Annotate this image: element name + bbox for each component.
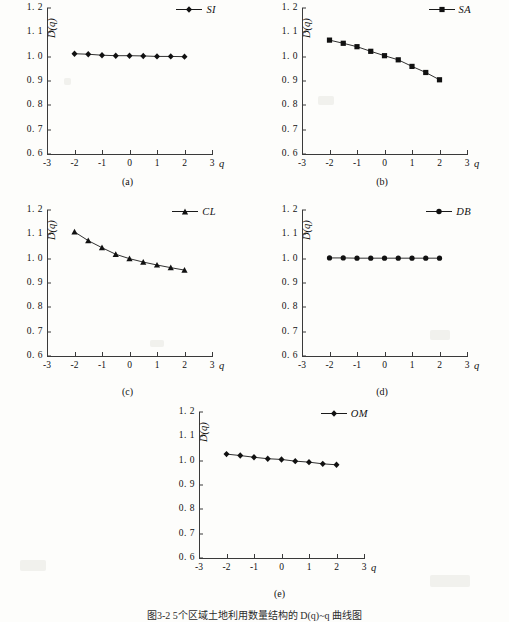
y-tick-label: 0. 6 bbox=[282, 351, 298, 361]
y-tick-label: 1. 2 bbox=[282, 3, 298, 13]
x-tick-mark bbox=[467, 150, 468, 154]
panel-c: D(q) CL q 0. 60. 70. 80. 91. 01. 11. 2-3… bbox=[0, 196, 255, 402]
y-tick-label: 1. 2 bbox=[179, 407, 195, 417]
y-tick-label: 1. 2 bbox=[27, 205, 43, 215]
data-point-marker bbox=[127, 52, 133, 58]
y-tick-mark bbox=[302, 154, 306, 155]
y-tick-label: 1. 1 bbox=[179, 432, 195, 442]
x-axis-label: q bbox=[474, 158, 479, 169]
data-point-marker bbox=[423, 256, 428, 261]
y-tick-mark bbox=[47, 56, 51, 57]
x-tick-label: 3 bbox=[210, 361, 215, 371]
y-tick-mark bbox=[47, 283, 51, 284]
data-point-marker bbox=[382, 256, 387, 261]
y-tick-mark bbox=[47, 129, 51, 130]
y-tick-mark bbox=[199, 533, 203, 534]
y-tick-label: 1. 0 bbox=[27, 52, 43, 62]
x-tick-mark bbox=[440, 352, 441, 356]
panel-caption-a: (a) bbox=[0, 176, 255, 187]
x-tick-label: 1 bbox=[155, 361, 160, 371]
y-tick-mark bbox=[47, 154, 51, 155]
x-tick-mark bbox=[185, 352, 186, 356]
x-tick-mark bbox=[75, 352, 76, 356]
data-point-marker bbox=[113, 52, 119, 58]
y-tick-label: 1. 1 bbox=[282, 230, 298, 240]
x-tick-mark bbox=[309, 554, 310, 558]
y-tick-mark bbox=[302, 283, 306, 284]
data-point-marker bbox=[224, 451, 230, 457]
x-tick-label: -1 bbox=[250, 563, 258, 573]
y-tick-label: 0. 6 bbox=[27, 351, 43, 361]
y-tick-label: 0. 7 bbox=[27, 327, 43, 337]
data-point-marker bbox=[437, 256, 442, 261]
x-tick-label: 0 bbox=[279, 563, 284, 573]
x-tick-label: 0 bbox=[127, 159, 132, 169]
plot-area-c: D(q) CL q 0. 60. 70. 80. 91. 01. 11. 2-3… bbox=[47, 210, 212, 356]
data-point-marker bbox=[396, 57, 401, 62]
x-tick-mark bbox=[157, 352, 158, 356]
data-point-marker bbox=[437, 77, 442, 82]
y-tick-label: 1. 1 bbox=[27, 230, 43, 240]
y-tick-label: 0. 8 bbox=[282, 101, 298, 111]
y-tick-label: 0. 9 bbox=[282, 76, 298, 86]
y-tick-mark bbox=[199, 485, 203, 486]
y-tick-label: 0. 9 bbox=[179, 480, 195, 490]
data-point-marker bbox=[382, 53, 387, 58]
plot-area-d: D(q) DB q 0. 60. 70. 80. 91. 01. 11. 2-3… bbox=[302, 210, 467, 356]
y-tick-mark bbox=[302, 258, 306, 259]
y-tick-label: 0. 7 bbox=[282, 125, 298, 135]
series-canvas-a bbox=[47, 8, 212, 154]
x-tick-label: 2 bbox=[437, 159, 442, 169]
x-tick-mark bbox=[330, 150, 331, 154]
x-tick-label: -3 bbox=[43, 159, 51, 169]
y-tick-label: 1. 1 bbox=[27, 28, 43, 38]
y-tick-label: 1. 0 bbox=[27, 254, 43, 264]
y-tick-mark bbox=[302, 105, 306, 106]
panel-b: D(q) SA q 0. 60. 70. 80. 91. 01. 11. 2-3… bbox=[255, 0, 509, 196]
x-tick-label: 3 bbox=[465, 159, 470, 169]
panel-caption-b: (b) bbox=[255, 176, 509, 187]
x-tick-label: -1 bbox=[353, 159, 361, 169]
x-tick-label: -2 bbox=[326, 159, 334, 169]
y-tick-mark bbox=[47, 81, 51, 82]
y-tick-mark bbox=[302, 56, 306, 57]
x-tick-label: 0 bbox=[127, 361, 132, 371]
y-tick-mark bbox=[47, 32, 51, 33]
x-axis-label: q bbox=[371, 562, 376, 573]
y-tick-mark bbox=[199, 509, 203, 510]
y-tick-mark bbox=[199, 558, 203, 559]
data-point-marker bbox=[306, 459, 312, 465]
data-point-marker bbox=[265, 456, 271, 462]
x-tick-mark bbox=[330, 352, 331, 356]
x-tick-mark bbox=[102, 352, 103, 356]
data-point-marker bbox=[354, 256, 359, 261]
x-tick-mark bbox=[157, 150, 158, 154]
y-tick-mark bbox=[47, 331, 51, 332]
x-tick-mark bbox=[385, 352, 386, 356]
y-tick-mark bbox=[302, 81, 306, 82]
y-tick-label: 0. 8 bbox=[27, 101, 43, 111]
y-tick-label: 0. 6 bbox=[27, 149, 43, 159]
y-tick-mark bbox=[199, 436, 203, 437]
data-point-marker bbox=[396, 256, 401, 261]
y-tick-label: 0. 6 bbox=[179, 553, 195, 563]
data-point-marker bbox=[292, 458, 298, 464]
y-tick-label: 0. 7 bbox=[179, 529, 195, 539]
panel-caption-d: (d) bbox=[255, 386, 509, 397]
x-tick-mark bbox=[130, 352, 131, 356]
x-tick-label: -2 bbox=[71, 159, 79, 169]
y-tick-mark bbox=[302, 234, 306, 235]
y-tick-label: 0. 9 bbox=[282, 278, 298, 288]
x-tick-mark bbox=[412, 352, 413, 356]
x-tick-mark bbox=[385, 150, 386, 154]
panel-a: D(q) SI q 0. 60. 70. 80. 91. 01. 11. 2-3… bbox=[0, 0, 255, 196]
x-tick-mark bbox=[185, 150, 186, 154]
x-tick-mark bbox=[467, 352, 468, 356]
x-tick-label: -3 bbox=[43, 361, 51, 371]
y-tick-mark bbox=[199, 412, 203, 413]
x-tick-label: -3 bbox=[298, 361, 306, 371]
y-tick-label: 0. 7 bbox=[27, 125, 43, 135]
y-tick-label: 1. 0 bbox=[179, 456, 195, 466]
x-tick-label: 1 bbox=[410, 361, 415, 371]
y-tick-label: 1. 0 bbox=[282, 254, 298, 264]
